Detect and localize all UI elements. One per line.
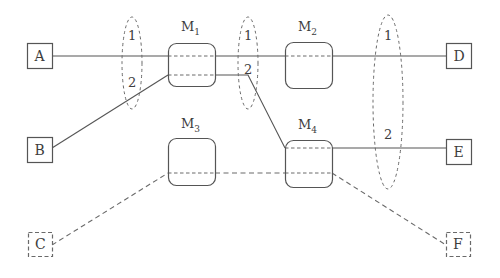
module-label-base-M3: M — [181, 116, 194, 131]
terminal-label-A: A — [35, 49, 45, 63]
module-label-subscript-M1: 1 — [194, 27, 200, 37]
link-M4-to-F — [332, 173, 446, 245]
terminal-label-C: C — [35, 237, 46, 251]
port-label-cut3-port2: 2 — [384, 128, 392, 141]
port-label-cut2-port1: 1 — [244, 29, 252, 42]
module-label-M3: M3 — [181, 117, 200, 134]
module-label-M1: M1 — [181, 20, 200, 37]
dashed-links-layer — [52, 173, 446, 245]
terminal-label-E: E — [454, 145, 464, 159]
link-C-to-M3 — [52, 173, 168, 245]
port-label-cut2-port2: 2 — [244, 63, 252, 76]
module-label-subscript-M2: 2 — [311, 27, 317, 37]
module-label-base-M4: M — [298, 117, 311, 132]
module-label-M2: M2 — [298, 20, 317, 37]
module-label-subscript-M3: 3 — [194, 124, 200, 134]
module-box-M1[interactable] — [169, 44, 216, 87]
module-label-base-M2: M — [298, 19, 311, 34]
module-label-subscript-M4: 4 — [311, 125, 317, 135]
terminal-label-F: F — [453, 237, 463, 251]
port-label-cut3-port1: 1 — [384, 29, 392, 42]
port-label-cut1-port2: 2 — [128, 76, 136, 89]
terminal-label-B: B — [35, 143, 45, 157]
module-label-base-M1: M — [181, 19, 194, 34]
port-label-cut1-port1: 1 — [128, 29, 136, 42]
module-label-M4: M4 — [298, 118, 317, 135]
diagram-canvas: ABCDEFM1M2M3M4121212 — [0, 0, 500, 278]
module-box-M2[interactable] — [286, 43, 333, 89]
cut-ellipses-layer — [122, 15, 403, 189]
module-box-M3[interactable] — [169, 139, 216, 186]
link-B-to-M1 — [52, 75, 168, 148]
link-M1-to-M4 — [215, 75, 285, 148]
terminal-label-D: D — [454, 49, 465, 63]
